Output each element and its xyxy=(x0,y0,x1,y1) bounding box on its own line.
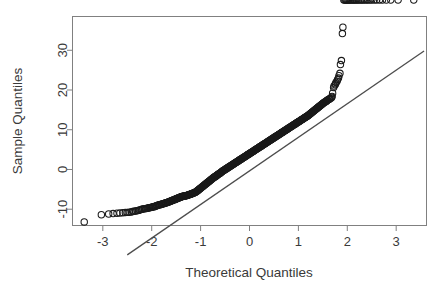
x-axis-title: Theoretical Quantiles xyxy=(185,265,313,280)
x-tick-label: 3 xyxy=(393,234,400,249)
y-axis-title: Sample Quantiles xyxy=(10,67,25,174)
y-tick-label: 10 xyxy=(55,123,70,137)
y-tick-label: 30 xyxy=(55,43,70,57)
y-tick-label: 20 xyxy=(55,83,70,97)
y-tick-label: -10 xyxy=(55,200,70,219)
x-tick-label: -1 xyxy=(195,234,207,249)
x-tick-label: -3 xyxy=(97,234,109,249)
y-tick-label: 0 xyxy=(55,166,70,173)
x-tick-label: 0 xyxy=(246,234,253,249)
qq-plot-figure: -3-2-10123 -100102030 Theoretical Quanti… xyxy=(0,0,442,293)
x-tick-label: 1 xyxy=(295,234,302,249)
x-tick-label: 2 xyxy=(344,234,351,249)
plot-canvas: -3-2-10123 -100102030 Theoretical Quanti… xyxy=(0,0,442,293)
